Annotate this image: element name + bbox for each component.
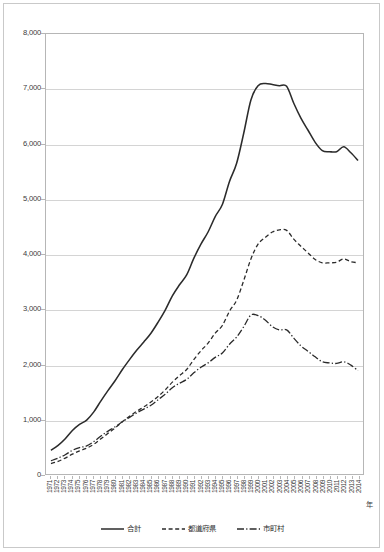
y-axis-tick-mark bbox=[41, 420, 45, 421]
x-axis-tick-label: 1991 bbox=[190, 480, 197, 493]
x-axis-tick-mark bbox=[115, 476, 116, 479]
y-axis-tick-mark bbox=[41, 475, 45, 476]
x-axis-title: 年 bbox=[366, 501, 373, 508]
y-axis-tick-label: 8,000 bbox=[23, 29, 41, 37]
x-axis-tick-mark bbox=[201, 476, 202, 479]
x-axis-tick-mark bbox=[215, 476, 216, 479]
x-axis-tick-mark bbox=[302, 476, 303, 479]
x-axis-tick-mark bbox=[251, 476, 252, 479]
x-axis-tick-mark bbox=[57, 476, 58, 479]
legend-swatch-dashed-icon bbox=[162, 525, 185, 533]
series-line bbox=[51, 314, 358, 461]
x-axis-tick-mark bbox=[151, 476, 152, 479]
x-axis-tick-mark bbox=[79, 476, 80, 479]
y-axis-tick-mark bbox=[41, 254, 45, 255]
legend-label-prefecture: 都道府県 bbox=[188, 525, 216, 532]
y-axis-tick-label: 7,000 bbox=[23, 84, 41, 92]
legend-swatch-solid-icon bbox=[101, 525, 124, 533]
y-axis-tick-label: 4,000 bbox=[23, 250, 41, 258]
series-line bbox=[51, 229, 358, 463]
x-axis-tick-label: 2012 bbox=[341, 480, 348, 493]
x-axis-tick-mark bbox=[122, 476, 123, 479]
x-axis-tick-mark bbox=[266, 476, 267, 479]
x-axis-tick-label: 1980 bbox=[111, 480, 118, 493]
legend-swatch-dashdot-icon bbox=[237, 525, 260, 533]
x-axis-tick-mark bbox=[359, 476, 360, 479]
x-axis-tick-mark bbox=[179, 476, 180, 479]
x-axis-tick-mark bbox=[107, 476, 108, 479]
y-axis-tick-label: 5,000 bbox=[23, 195, 41, 203]
y-axis-tick-mark bbox=[41, 144, 45, 145]
y-axis-tick-label: 3,000 bbox=[23, 305, 41, 313]
x-axis-tick-mark bbox=[323, 476, 324, 479]
x-axis-tick-mark bbox=[72, 476, 73, 479]
legend-item-municipality: 市町村 bbox=[237, 525, 284, 533]
x-axis-tick-mark bbox=[294, 476, 295, 479]
x-axis-tick-mark bbox=[273, 476, 274, 479]
y-axis-tick-mark bbox=[41, 365, 45, 366]
x-axis-tick-mark bbox=[337, 476, 338, 479]
x-axis-tick-mark bbox=[352, 476, 353, 479]
x-axis-tick-mark bbox=[287, 476, 288, 479]
x-axis-tick-mark bbox=[309, 476, 310, 479]
y-axis-tick-mark bbox=[41, 309, 45, 310]
legend-item-prefecture: 都道府県 bbox=[162, 525, 216, 533]
x-axis-tick-mark bbox=[244, 476, 245, 479]
chart-legend: 合計 都道府県 市町村 bbox=[4, 525, 381, 533]
x-axis-tick-mark bbox=[158, 476, 159, 479]
x-axis-tick-mark bbox=[237, 476, 238, 479]
x-axis-tick-mark bbox=[143, 476, 144, 479]
y-axis-tick-mark bbox=[41, 88, 45, 89]
y-axis-tick-label: 1,000 bbox=[23, 416, 41, 424]
x-axis-tick-mark bbox=[194, 476, 195, 479]
x-axis-tick-mark bbox=[129, 476, 130, 479]
x-axis-tick-mark bbox=[172, 476, 173, 479]
y-axis-tick-label: 2,000 bbox=[23, 361, 41, 369]
x-axis-tick-label: 2007 bbox=[305, 480, 312, 493]
x-axis-tick-mark bbox=[136, 476, 137, 479]
x-axis-tick-label: 1996 bbox=[226, 480, 233, 493]
x-axis-tick-mark bbox=[93, 476, 94, 479]
x-axis-tick-label: 2014 bbox=[356, 480, 363, 493]
x-axis-tick-mark bbox=[208, 476, 209, 479]
y-axis: 8,0007,0006,0005,0004,0003,0002,0001,000… bbox=[4, 4, 41, 552]
x-axis-tick-mark bbox=[345, 476, 346, 479]
plot-area bbox=[45, 33, 364, 475]
x-axis-tick-mark bbox=[64, 476, 65, 479]
chart-lines bbox=[46, 34, 363, 474]
x-axis-tick-mark bbox=[222, 476, 223, 479]
legend-item-total: 合計 bbox=[101, 525, 141, 533]
legend-label-municipality: 市町村 bbox=[263, 525, 284, 532]
chart-container: 8,0007,0006,0005,0004,0003,0002,0001,000… bbox=[3, 3, 380, 548]
x-axis-tick-mark bbox=[316, 476, 317, 479]
y-axis-tick-mark bbox=[41, 199, 45, 200]
x-axis-tick-mark bbox=[86, 476, 87, 479]
x-axis-tick-mark bbox=[100, 476, 101, 479]
x-axis-tick-mark bbox=[50, 476, 51, 479]
x-axis-tick-mark bbox=[330, 476, 331, 479]
x-axis-tick-mark bbox=[258, 476, 259, 479]
x-axis-tick-mark bbox=[187, 476, 188, 479]
legend-label-total: 合計 bbox=[127, 525, 141, 532]
x-axis: 1971197219731974197519761977197819791980… bbox=[45, 476, 364, 516]
series-line bbox=[51, 83, 358, 450]
x-axis-tick-mark bbox=[165, 476, 166, 479]
x-axis-tick-mark bbox=[280, 476, 281, 479]
x-axis-tick-mark bbox=[230, 476, 231, 479]
y-axis-tick-mark bbox=[41, 33, 45, 34]
y-axis-tick-label: 6,000 bbox=[23, 140, 41, 148]
